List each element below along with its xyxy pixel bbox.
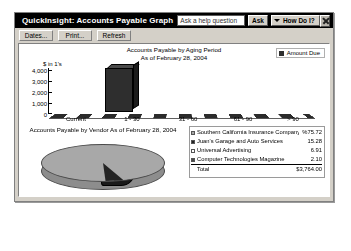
quickinsight-window: QuickInsight: Accounts Payable Graph Ask… (14, 12, 334, 202)
table-row: Juan's Garage and Auto Services 15.28 (191, 137, 322, 146)
table-row-total: Total $3,764.00 (191, 164, 322, 174)
window-toolbar: Dates... Print... Refresh (15, 28, 333, 42)
pie-top (41, 144, 165, 182)
table-row: Southern California Insurance Company %7… (191, 128, 322, 137)
screenshot-root: QuickInsight: Accounts Payable Graph Ask… (0, 0, 351, 251)
x-label-over-90: > 90 (287, 116, 299, 122)
x-label-current: Current (66, 116, 86, 122)
legend-swatch-icon (279, 51, 284, 56)
y-axis-line (48, 68, 49, 113)
x-label-31-60: 31 - 60 (179, 116, 198, 122)
help-question-input[interactable]: Ask a help question (177, 15, 245, 26)
y-tick-label-0: 0 (44, 112, 47, 118)
y-tick-4000 (48, 70, 52, 71)
total-label: Total (197, 165, 293, 174)
bar-side-face (133, 61, 139, 109)
table-row: Computer Technologies Magazine 2.10 (191, 155, 322, 164)
y-tick-label-2000: 2,000 (32, 90, 47, 96)
close-icon[interactable] (320, 15, 330, 27)
how-do-i-label: How Do I? (283, 16, 315, 26)
bar-1-30[interactable] (105, 68, 139, 112)
total-value: $3,764.00 (293, 165, 322, 174)
vendor-value: 6.91 (308, 146, 322, 155)
vendor-swatch-icon (191, 149, 195, 153)
y-tick-label-3000: 3,000 (32, 79, 47, 85)
vendor-value: 2.10 (308, 155, 322, 164)
vendor-name: Southern California Insurance Company (197, 128, 299, 137)
vendor-value: %75.72 (299, 128, 322, 137)
pie-chart-panel: Accounts Payable by Vendor As of Februar… (19, 124, 187, 196)
window-titlebar: QuickInsight: Accounts Payable Graph Ask… (15, 13, 333, 28)
vendor-value: 15.28 (304, 137, 322, 146)
vendor-swatch-icon (191, 131, 195, 135)
y-tick-label-4000: 4,000 (32, 68, 47, 74)
legend-label-amount-due: Amount Due (287, 50, 320, 56)
y-axis-unit-label: $ in 1's (43, 61, 62, 67)
bar-chart-panel: Accounts Payable by Aging Period As of F… (19, 44, 329, 124)
vendor-name: Universal Advertising (197, 146, 308, 155)
y-tick-3000 (48, 81, 52, 82)
pie-chart-title: Accounts Payable by Vendor As of Februar… (19, 126, 187, 134)
vendor-swatch-icon (191, 140, 195, 144)
refresh-button[interactable]: Refresh (97, 30, 131, 41)
x-label-1-30: 1 - 30 (124, 116, 139, 122)
vendor-legend-table: Southern California Insurance Company %7… (189, 126, 325, 178)
bar-chart-legend: Amount Due (276, 48, 325, 58)
x-label-61-90: 61 - 90 (234, 116, 253, 122)
y-tick-2000 (48, 92, 52, 93)
print-button[interactable]: Print... (58, 30, 92, 41)
dates-button[interactable]: Dates... (19, 30, 53, 41)
pie-chart-title-line2: As of February 28, 2004 (110, 126, 176, 133)
report-client-area: Accounts Payable by Aging Period As of F… (18, 43, 330, 197)
vendor-name: Juan's Garage and Auto Services (197, 137, 304, 146)
ask-button[interactable]: Ask (248, 15, 268, 26)
y-tick-1000 (48, 103, 52, 104)
window-title: QuickInsight: Accounts Payable Graph (16, 16, 177, 25)
pie-graphic[interactable] (41, 144, 165, 194)
pie-chart-title-line1: Accounts Payable by Vendor (30, 126, 109, 133)
vendor-name: Computer Technologies Magazine (197, 155, 308, 164)
chevron-down-icon (274, 19, 280, 22)
vendor-swatch-icon (191, 158, 195, 162)
table-row: Universal Advertising 6.91 (191, 146, 322, 155)
y-tick-label-1000: 1,000 (32, 101, 47, 107)
how-do-i-dropdown[interactable]: How Do I? (271, 15, 320, 26)
bar-chart-title-line1: Accounts Payable by Aging Period (127, 46, 222, 53)
bar-front-face (105, 68, 133, 112)
